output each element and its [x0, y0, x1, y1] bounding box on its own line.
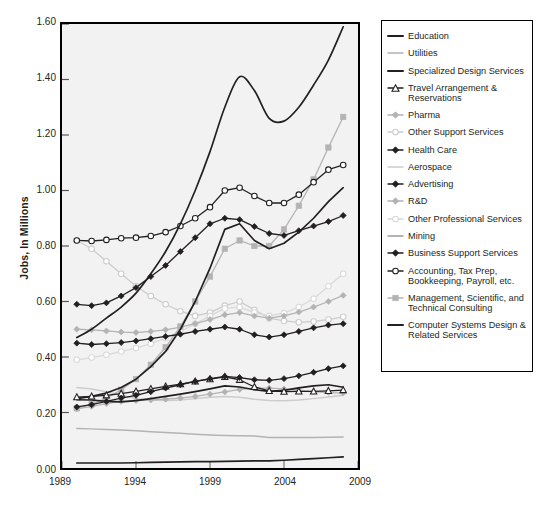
legend-item-aerospace[interactable]: Aerospace [387, 161, 526, 173]
x-tick-label: 1989 [40, 476, 80, 487]
legend-swatch-icon [387, 161, 404, 173]
legend-swatch-icon [387, 247, 404, 259]
legend-item-label: Computer Systems Design & Related Servic… [408, 319, 526, 341]
legend-swatch-icon [387, 178, 404, 190]
legend-item-label: Health Care [408, 144, 457, 155]
legend-item-label: Pharma [408, 109, 440, 120]
legend-item-label: R&D [408, 195, 427, 206]
y-tick-label: 0.80 [22, 240, 56, 251]
x-tick-label: 2009 [340, 476, 380, 487]
legend-item-mining[interactable]: Mining [387, 230, 526, 242]
legend-item-label: Other Professional Services [408, 213, 522, 224]
legend-item-label: Specialized Design Services [408, 65, 524, 76]
legend-item-other-professional-services[interactable]: Other Professional Services [387, 213, 526, 225]
series-canvas [62, 24, 358, 468]
legend-swatch-icon [387, 109, 404, 121]
legend-item-r-d[interactable]: R&D [387, 195, 526, 207]
legend-item-label: Mining [408, 230, 435, 241]
legend-swatch-icon [387, 195, 404, 207]
legend-item-health-care[interactable]: Health Care [387, 144, 526, 156]
legend-item-advertising[interactable]: Advertising [387, 178, 526, 190]
legend-item-label: Travel Arrangement & Reservations [408, 82, 526, 104]
legend-swatch-icon [387, 213, 404, 225]
legend-item-business-support-services[interactable]: Business Support Services [387, 247, 526, 259]
legend-item-specialized-design-services[interactable]: Specialized Design Services [387, 65, 526, 77]
series-utilities [77, 429, 343, 438]
legend-item-label: Other Support Services [408, 126, 504, 137]
y-tick-label: 0.40 [22, 352, 56, 363]
legend-swatch-icon [387, 292, 404, 304]
x-axis-tick-labels: 19891994199920042009 [0, 476, 380, 494]
legend-item-management-scientific-and-technical-consulting[interactable]: Management, Scientific, and Technical Co… [387, 292, 526, 314]
legend-item-computer-systems-design-related-services[interactable]: Computer Systems Design & Related Servic… [387, 319, 526, 341]
series-education [77, 27, 343, 338]
series-computer-systems-design-related-services [77, 188, 343, 399]
series-mining [77, 457, 343, 463]
legend-swatch-icon [387, 47, 404, 59]
legend-swatch-icon [387, 319, 404, 331]
legend-swatch-icon [387, 265, 404, 277]
legend-item-accounting-tax-prep-bookkeeping-payroll-etc[interactable]: Accounting, Tax Prep, Bookkeeping, Payro… [387, 265, 526, 287]
legend-swatch-icon [387, 65, 404, 77]
legend-item-pharma[interactable]: Pharma [387, 109, 526, 121]
y-tick-label: 0.60 [22, 296, 56, 307]
legend-swatch-icon [387, 230, 404, 242]
legend-item-other-support-services[interactable]: Other Support Services [387, 126, 526, 138]
x-tick-label: 2004 [265, 476, 305, 487]
chart-figure: Jobs, In Millions 0.000.200.400.600.801.… [0, 0, 540, 514]
x-tick-label: 1999 [190, 476, 230, 487]
plot-area [60, 22, 360, 470]
legend-swatch-icon [387, 82, 404, 94]
y-tick-label: 0.20 [22, 408, 56, 419]
legend-item-travel-arrangement-reservations[interactable]: Travel Arrangement & Reservations [387, 82, 526, 104]
legend-item-label: Business Support Services [408, 247, 518, 258]
legend-item-label: Utilities [408, 47, 438, 58]
y-axis-tick-labels: 0.000.200.400.600.801.001.201.401.60 [18, 0, 56, 514]
series-accounting-tax-prep-bookkeeping-payroll-etc [74, 162, 346, 244]
y-tick-label: 1.20 [22, 128, 56, 139]
legend-item-label: Education [408, 30, 449, 41]
y-tick-label: 1.00 [22, 184, 56, 195]
legend-swatch-icon [387, 30, 404, 42]
y-tick-label: 0.00 [22, 464, 56, 475]
legend-item-education[interactable]: Education [387, 30, 526, 42]
y-tick-label: 1.60 [22, 16, 56, 27]
x-tick-label: 1994 [115, 476, 155, 487]
legend-item-label: Accounting, Tax Prep, Bookkeeping, Payro… [408, 265, 526, 287]
legend-item-label: Advertising [408, 178, 453, 189]
series-advertising [74, 321, 346, 348]
y-tick-label: 1.40 [22, 72, 56, 83]
legend-item-label: Aerospace [408, 161, 452, 172]
legend-swatch-icon [387, 126, 404, 138]
legend-item-label: Management, Scientific, and Technical Co… [408, 292, 526, 314]
legend-item-utilities[interactable]: Utilities [387, 47, 526, 59]
legend-swatch-icon [387, 144, 404, 156]
legend: EducationUtilitiesSpecialized Design Ser… [381, 20, 533, 372]
series-management-scientific-and-technical-consulting [74, 114, 346, 411]
